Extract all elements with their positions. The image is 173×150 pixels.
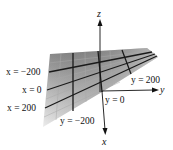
- z-arrow-icon: [98, 19, 103, 26]
- label-x-minus-200: x = −200: [6, 67, 41, 77]
- x-axis-label: x: [101, 136, 107, 147]
- label-y-minus-200: y = −200: [60, 116, 95, 126]
- z-axis-label: z: [96, 8, 101, 19]
- y-arrow-icon: [152, 88, 159, 93]
- label-x-0: x = 0: [22, 85, 42, 95]
- label-y-0: y = 0: [105, 95, 125, 105]
- label-y-200: y = 200: [131, 75, 160, 85]
- y-axis: [102, 90, 154, 91]
- x-arrow-icon: [103, 128, 108, 135]
- y-axis-label: y: [159, 84, 165, 95]
- label-x-200: x = 200: [7, 103, 36, 113]
- plane-diagram: z y x x = −200 x = 0 x = 200 y = −200 y …: [0, 0, 173, 150]
